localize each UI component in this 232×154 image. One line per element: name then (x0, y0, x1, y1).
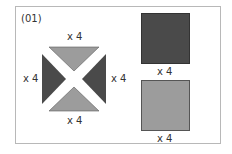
figure-id-label: (01) (21, 13, 42, 25)
left-triangle (42, 54, 66, 104)
bottom-triangle (49, 87, 99, 111)
top-triangle-count: x 4 (67, 31, 82, 43)
right-triangle (82, 54, 106, 104)
light-square (141, 80, 190, 131)
triangle-group (40, 45, 108, 113)
bottom-triangle-count: x 4 (67, 115, 82, 127)
dark-square-count: x 4 (157, 66, 172, 78)
top-triangle (49, 47, 99, 71)
dark-square (141, 13, 190, 64)
right-triangle-count: x 4 (111, 73, 126, 85)
left-triangle-count: x 4 (23, 73, 38, 85)
light-square-count: x 4 (157, 133, 172, 145)
